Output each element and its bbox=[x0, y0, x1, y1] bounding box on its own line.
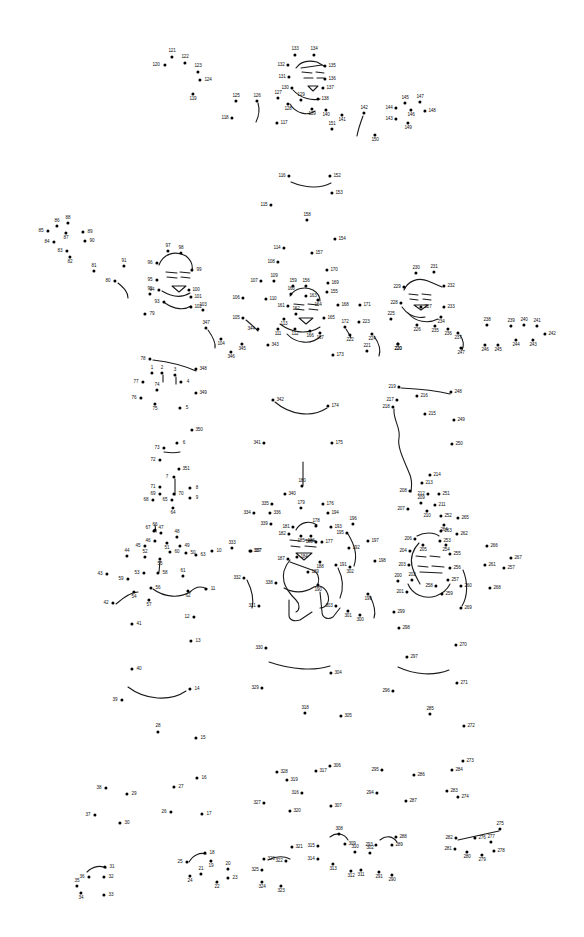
puzzle-dot-label: 262 bbox=[460, 532, 467, 537]
puzzle-dot-label: 307 bbox=[334, 804, 341, 809]
puzzle-dot-label: 224 bbox=[368, 337, 375, 342]
puzzle-dot-label: 37 bbox=[86, 813, 91, 818]
puzzle-dot-label: 234 bbox=[437, 320, 444, 325]
puzzle-dot bbox=[179, 380, 182, 383]
puzzle-dot-label: 270 bbox=[459, 643, 466, 648]
puzzle-dot-label: 118 bbox=[222, 116, 229, 121]
puzzle-dot-label: 245 bbox=[494, 348, 501, 353]
puzzle-dot-label: 319 bbox=[290, 778, 297, 783]
puzzle-dot-label: 315 bbox=[307, 844, 314, 849]
puzzle-dot-label: 78 bbox=[141, 357, 146, 362]
puzzle-dot-label: 163 bbox=[309, 294, 316, 299]
body-r-face4 bbox=[432, 566, 444, 567]
puzzle-dot bbox=[502, 566, 505, 569]
puzzle-dot bbox=[256, 327, 259, 330]
puzzle-dot-label: 348 bbox=[199, 367, 206, 372]
puzzle-dot-label: 214 bbox=[433, 473, 440, 478]
puzzle-dot bbox=[461, 759, 464, 762]
puzzle-dot bbox=[329, 804, 332, 807]
puzzle-dot bbox=[323, 77, 326, 80]
puzzle-dot-label: 119 bbox=[190, 97, 197, 102]
puzzle-dot-label: 215 bbox=[428, 412, 435, 417]
puzzle-dot-label: 43 bbox=[98, 572, 103, 577]
puzzle-dot-label: 81 bbox=[92, 264, 97, 269]
puzzle-dot bbox=[419, 501, 422, 504]
puzzle-dot-label: 199 bbox=[364, 597, 371, 602]
puzzle-dot bbox=[188, 496, 191, 499]
puzzle-dot-label: 266 bbox=[490, 544, 497, 549]
puzzle-dot-label: 249 bbox=[457, 418, 464, 423]
puzzle-dot-label: 288 bbox=[399, 835, 406, 840]
face-upper-hair-1 bbox=[296, 61, 324, 68]
puzzle-dot-label: 20 bbox=[226, 862, 231, 867]
puzzle-dot-label: 200 bbox=[394, 574, 401, 579]
puzzle-dot-label: 230 bbox=[412, 266, 419, 271]
puzzle-dot bbox=[65, 249, 68, 252]
puzzle-dot-label: 3 bbox=[174, 368, 176, 373]
puzzle-dot-label: 84 bbox=[45, 240, 50, 245]
stroke-206-205 bbox=[417, 533, 439, 536]
puzzle-dot bbox=[331, 353, 334, 356]
puzzle-dot bbox=[141, 380, 144, 383]
puzzle-dot-label: 302 bbox=[346, 570, 353, 575]
puzzle-dot bbox=[437, 492, 440, 495]
puzzle-dot-label: 290 bbox=[388, 878, 395, 883]
puzzle-dot bbox=[156, 571, 159, 574]
puzzle-dot-label: 211 bbox=[439, 503, 446, 508]
puzzle-dot-label: 289 bbox=[395, 843, 402, 848]
puzzle-dot bbox=[257, 604, 260, 607]
puzzle-dot bbox=[272, 279, 275, 282]
stroke-142 bbox=[357, 116, 363, 136]
puzzle-dot-label: 283 bbox=[450, 789, 457, 794]
puzzle-dot-label: 316 bbox=[291, 791, 298, 796]
puzzle-dot bbox=[325, 290, 328, 293]
puzzle-dot-label: 265 bbox=[461, 516, 468, 521]
puzzle-dot-label: 314 bbox=[307, 857, 314, 862]
puzzle-dot bbox=[329, 671, 332, 674]
face-upper-brow-left bbox=[302, 72, 312, 73]
puzzle-dot-label: 258 bbox=[425, 584, 432, 589]
puzzle-dot bbox=[314, 540, 317, 543]
puzzle-dot bbox=[170, 498, 173, 501]
puzzle-dot bbox=[394, 106, 397, 109]
puzzle-dot-label: 213 bbox=[425, 481, 432, 486]
puzzle-dot-label: 114 bbox=[274, 246, 281, 251]
puzzle-dot bbox=[326, 511, 329, 514]
puzzle-dot-label: 312 bbox=[347, 874, 354, 879]
puzzle-dot-label: 205 bbox=[419, 548, 426, 553]
puzzle-dot-label: 349 bbox=[199, 391, 206, 396]
puzzle-dot-label: 54 bbox=[132, 595, 137, 600]
puzzle-dot-label: 185 bbox=[297, 539, 304, 544]
puzzle-dot bbox=[320, 540, 323, 543]
puzzle-dot-label: 14 bbox=[195, 687, 200, 692]
puzzle-dot bbox=[178, 406, 181, 409]
puzzle-dot-label: 277 bbox=[487, 835, 494, 840]
puzzle-dot bbox=[391, 689, 394, 692]
puzzle-dot-label: 222 bbox=[346, 338, 353, 343]
puzzle-dot bbox=[454, 836, 457, 839]
puzzle-dot-label: 343 bbox=[271, 343, 278, 348]
puzzle-dot bbox=[306, 570, 309, 573]
puzzle-dot-label: 146 bbox=[407, 113, 414, 118]
arrow-upper bbox=[301, 65, 322, 68]
puzzle-dot bbox=[485, 323, 488, 326]
puzzle-dot-label: 42 bbox=[104, 601, 109, 606]
puzzle-dot bbox=[300, 791, 303, 794]
puzzle-dot bbox=[242, 576, 245, 579]
puzzle-dot-label: 169 bbox=[331, 281, 338, 286]
puzzle-dot-label: 268 bbox=[493, 586, 500, 591]
puzzle-dot-label: 125 bbox=[232, 94, 239, 99]
puzzle-dot bbox=[438, 539, 441, 542]
puzzle-dot-label: 164 bbox=[314, 303, 321, 308]
puzzle-dot-label: 193 bbox=[334, 525, 341, 530]
puzzle-dot-label: 220 bbox=[394, 347, 401, 352]
puzzle-dot bbox=[456, 795, 459, 798]
puzzle-dot bbox=[446, 578, 449, 581]
puzzle-dot-label: 113 bbox=[281, 322, 288, 327]
puzzle-dot-label: 22 bbox=[215, 885, 220, 890]
puzzle-dot-label: 176 bbox=[326, 502, 333, 507]
puzzle-dot bbox=[310, 251, 313, 254]
puzzle-dot bbox=[255, 99, 258, 102]
puzzle-dot-label: 195 bbox=[336, 531, 343, 536]
puzzle-dot bbox=[522, 323, 525, 326]
